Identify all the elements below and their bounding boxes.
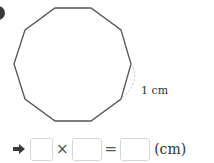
answer-box-perimeter[interactable] (120, 138, 150, 161)
answer-box-side-count[interactable] (30, 138, 53, 161)
unit-label: (cm) (154, 141, 186, 157)
multiply-sign: × (56, 142, 69, 157)
right-arrow-icon (13, 144, 25, 154)
equals-sign: = (105, 142, 118, 157)
equation-row: × = (cm) (13, 137, 186, 161)
decagon-shape (14, 8, 131, 121)
side-length-label: 1 cm (141, 84, 168, 97)
answer-box-side-length[interactable] (72, 138, 102, 161)
decagon-figure (0, 0, 214, 130)
